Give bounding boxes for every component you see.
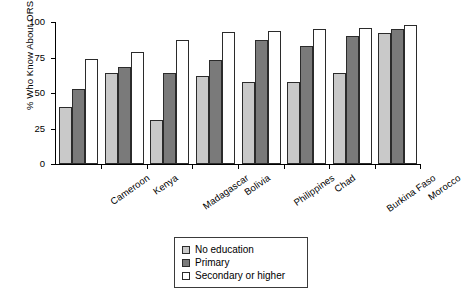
bar [163, 73, 176, 164]
plot-area: 0255075100 CameroonKenyaMadagascarBolivi… [55, 22, 420, 164]
bar-group [378, 22, 417, 164]
bar [242, 82, 255, 164]
bar [222, 32, 235, 164]
y-axis-tick-label: 25 [34, 123, 45, 134]
bar [255, 40, 268, 164]
x-axis-label: Chad [332, 172, 357, 194]
bar [72, 89, 85, 164]
bar [131, 52, 144, 164]
bar-group [150, 22, 189, 164]
y-axis-tick: 100 [51, 22, 56, 23]
bar [333, 73, 346, 164]
bar [404, 25, 417, 164]
y-axis-tick: 75 [51, 58, 56, 59]
bar [176, 40, 189, 164]
legend-item-no-education: No education [182, 243, 300, 256]
bar [359, 28, 372, 164]
bar-group [242, 22, 281, 164]
legend-swatch-icon-primary [182, 259, 190, 267]
x-axis-tick [101, 165, 102, 169]
legend-item-primary: Primary [182, 256, 300, 269]
legend-label-primary: Primary [195, 257, 229, 269]
x-axis-tick [420, 165, 421, 169]
legend-item-secondary-or-higher: Secondary or higher [182, 269, 300, 282]
y-axis-tick-label: 0 [40, 158, 45, 169]
x-axis-tick [238, 165, 239, 169]
y-axis-tick-label: 50 [34, 87, 45, 98]
x-axis-tick [375, 165, 376, 169]
x-axis-tick [192, 165, 193, 169]
bar-group [59, 22, 98, 164]
legend-label-no-education: No education [195, 244, 254, 256]
bar [150, 120, 163, 164]
bar-group [333, 22, 372, 164]
bar-group [196, 22, 235, 164]
bar [268, 31, 281, 164]
bar-group [105, 22, 144, 164]
bar [85, 59, 98, 164]
chart-legend: No education Primary Secondary or higher [174, 237, 308, 288]
legend-swatch-icon-secondary-or-higher [182, 272, 190, 280]
bar-group [287, 22, 326, 164]
bar [59, 107, 72, 164]
bar [313, 29, 326, 164]
bar [118, 67, 131, 164]
x-axis-label: Kenya [151, 172, 180, 197]
bar [346, 36, 359, 164]
y-axis-tick: 0 [51, 164, 56, 165]
y-axis-tick: 50 [51, 93, 56, 94]
bar [105, 73, 118, 164]
bar [391, 29, 404, 164]
bar [378, 33, 391, 164]
x-axis-tick [284, 165, 285, 169]
bar [287, 82, 300, 164]
y-axis-tick: 25 [51, 129, 56, 130]
legend-label-secondary-or-higher: Secondary or higher [195, 270, 285, 282]
legend-swatch-icon-no-education [182, 246, 190, 254]
bar [196, 76, 209, 164]
bar [300, 46, 313, 164]
x-axis-label: Philippines [291, 172, 336, 208]
bar [209, 60, 222, 164]
y-axis-tick-label: 75 [34, 52, 45, 63]
y-axis-tick-label: 100 [29, 16, 45, 27]
x-axis-label: Madagascar [201, 172, 251, 212]
x-axis-tick [329, 165, 330, 169]
x-axis-label: Cameroon [108, 172, 151, 207]
x-axis-tick [147, 165, 148, 169]
